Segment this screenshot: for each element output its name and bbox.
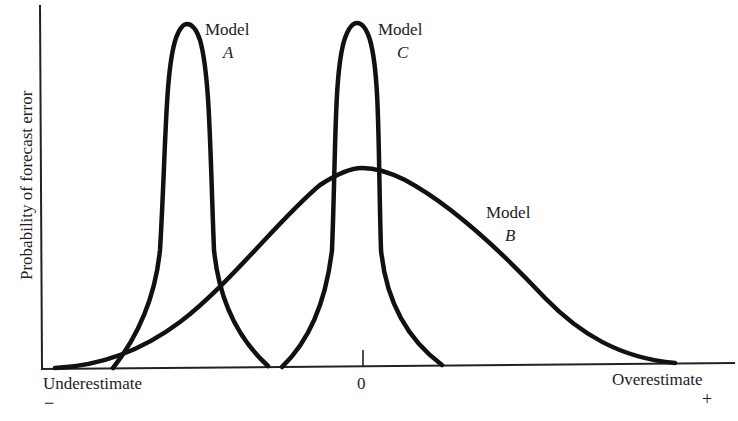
y-axis-label: Probability of forecast error	[17, 110, 37, 280]
x-label-underestimate: Underestimate	[43, 375, 142, 392]
label-model-a-letter: A	[223, 44, 233, 61]
curve-model-b	[55, 168, 675, 368]
x-axis	[41, 363, 735, 369]
x-label-minus-sign: −	[44, 394, 54, 412]
label-model-b-letter: B	[505, 227, 515, 244]
label-model-c-letter: C	[397, 44, 408, 61]
y-axis	[40, 5, 42, 369]
x-label-overestimate: Overestimate	[612, 371, 703, 388]
label-model-c-word: Model	[378, 21, 422, 38]
x-label-plus-sign: +	[702, 390, 712, 408]
x-label-zero: 0	[357, 375, 366, 392]
label-model-a-word: Model	[205, 21, 249, 38]
label-model-b-word: Model	[486, 204, 530, 221]
chart-canvas	[0, 0, 738, 421]
